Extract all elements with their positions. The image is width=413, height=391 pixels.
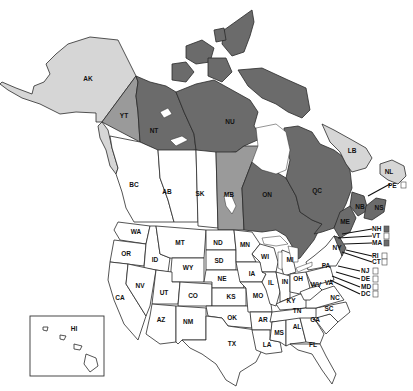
- label-mt: MT: [175, 239, 184, 246]
- region-arizona: [146, 304, 176, 344]
- label-ct: CT: [372, 258, 381, 265]
- label-ca: CA: [115, 294, 125, 301]
- north-america-map: AK YT NT NU BC AB SK MB ON QC LB NL NB N…: [0, 0, 413, 391]
- lake-erie: [296, 262, 312, 272]
- label-pe: PE: [388, 182, 397, 189]
- label-ny: NY: [332, 244, 342, 251]
- label-lb: LB: [348, 147, 357, 154]
- label-nu: NU: [225, 118, 235, 125]
- label-il: IL: [268, 279, 274, 286]
- region-hawaii-maui: [74, 344, 82, 350]
- label-yt: YT: [120, 112, 128, 119]
- pe-shade-box: [401, 182, 406, 188]
- hudson-bay: [252, 124, 290, 174]
- label-or: OR: [121, 250, 131, 257]
- leader-nj: [338, 266, 360, 271]
- label-nb: NB: [355, 203, 365, 210]
- label-bc: BC: [129, 181, 139, 188]
- label-vt: VT: [372, 232, 380, 239]
- ct-shade-box: [382, 259, 387, 265]
- label-ut: UT: [160, 289, 169, 296]
- region-hawaii-oahu: [60, 335, 66, 340]
- label-fl: FL: [309, 341, 317, 348]
- label-wi: WI: [261, 253, 269, 260]
- label-ne: NE: [217, 275, 227, 282]
- label-ia: IA: [249, 270, 256, 277]
- label-mi: MI: [286, 256, 293, 263]
- label-sc: SC: [324, 305, 333, 312]
- label-ab: AB: [162, 188, 172, 195]
- label-nj: NJ: [361, 267, 370, 274]
- label-va: VA: [325, 279, 334, 286]
- label-nc: NC: [330, 294, 340, 301]
- label-tx: TX: [228, 340, 237, 347]
- ma-shade-box: [384, 240, 389, 246]
- nj-shade-box: [373, 268, 378, 274]
- label-in: IN: [282, 278, 289, 285]
- leader-ma: [344, 243, 372, 244]
- label-tn: TN: [293, 307, 302, 314]
- region-new-mexico: [176, 306, 206, 344]
- label-ga: GA: [310, 316, 320, 323]
- label-ks: KS: [226, 293, 236, 300]
- label-nt: NT: [150, 127, 159, 134]
- region-nunavut-island-c: [208, 58, 232, 82]
- label-nh: NH: [372, 225, 382, 232]
- label-ky: KY: [286, 297, 296, 304]
- label-sk: SK: [195, 190, 204, 197]
- leader-ct: [342, 252, 372, 262]
- ri-shade-box: [382, 253, 387, 259]
- label-hi: HI: [71, 325, 78, 332]
- label-nm: NM: [183, 318, 193, 325]
- region-nunavut-island-b: [172, 62, 194, 82]
- region-nunavut-island-ellesmere: [222, 10, 254, 56]
- vt-shade-box: [384, 233, 389, 239]
- label-nd: ND: [213, 239, 223, 246]
- label-wv: WV: [311, 281, 322, 288]
- lake-superior: [262, 236, 288, 246]
- label-ok: OK: [227, 314, 237, 321]
- label-md: MD: [361, 283, 371, 290]
- label-nl: NL: [385, 168, 394, 175]
- leader-pe: [368, 184, 390, 196]
- label-oh: OH: [293, 275, 303, 282]
- label-pa: PA: [322, 262, 331, 269]
- label-la: LA: [263, 341, 272, 348]
- label-dc: DC: [361, 290, 371, 297]
- lake-michigan: [278, 252, 282, 270]
- dc-shade-box: [373, 291, 378, 297]
- label-ns: NS: [374, 204, 384, 211]
- label-mb: MB: [224, 191, 234, 198]
- label-ms: MS: [274, 329, 284, 336]
- label-ak: AK: [83, 75, 93, 82]
- label-co: CO: [188, 292, 198, 299]
- label-ar: AR: [258, 316, 268, 323]
- label-mo: MO: [253, 292, 263, 299]
- region-hawaii-big-island: [84, 354, 98, 372]
- label-nv: NV: [135, 282, 145, 289]
- label-wy: WY: [183, 264, 194, 271]
- region-nunavut-island-d: [214, 28, 226, 42]
- label-id: ID: [152, 256, 159, 263]
- label-on: ON: [262, 191, 272, 198]
- label-wa: WA: [131, 228, 142, 235]
- label-ma: MA: [372, 239, 382, 246]
- md-shade-box: [373, 284, 378, 290]
- region-hawaii-kauai: [43, 327, 48, 331]
- label-al: AL: [293, 323, 302, 330]
- label-sd: SD: [214, 257, 223, 264]
- leader-de: [336, 272, 360, 279]
- nh-shade-box: [384, 226, 389, 232]
- label-me: ME: [340, 218, 350, 225]
- label-az: AZ: [157, 316, 166, 323]
- label-qc: QC: [312, 187, 322, 195]
- region-florida: [290, 344, 336, 384]
- label-de: DE: [361, 275, 371, 282]
- label-mn: MN: [240, 241, 250, 248]
- de-shade-box: [373, 276, 378, 282]
